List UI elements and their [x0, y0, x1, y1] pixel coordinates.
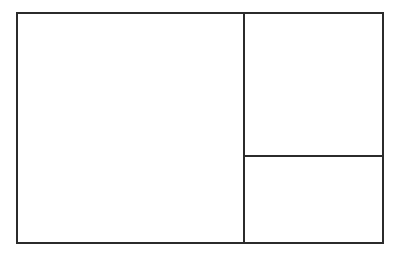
vertical-divider-line — [243, 12, 245, 244]
top-right-region — [244, 12, 384, 156]
bottom-right-region — [244, 156, 384, 244]
diagram-canvas — [0, 0, 401, 255]
horizontal-divider-line — [244, 155, 384, 157]
left-region — [16, 12, 244, 244]
